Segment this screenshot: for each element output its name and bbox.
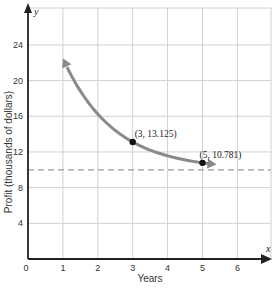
x-tick-label: 6 [235,263,240,273]
y-tick-label: 16 [13,111,23,121]
y-tick-label: 12 [13,147,23,157]
profit-chart: 01234564812162024 (3, 13.125)(5, 10.781)… [0,0,274,296]
data-point-label: (3, 13.125) [135,129,177,140]
x-tick-label: 4 [165,263,170,273]
y-tick-label: 8 [18,183,23,193]
x-tick-label: 3 [130,263,135,273]
y-tick-label: 20 [13,76,23,86]
x-tick-label: 0 [23,263,28,273]
x-tick-label: 5 [200,263,205,273]
y-tick-label: 24 [13,40,23,50]
x-axis-name: x [265,243,271,254]
data-point [130,139,136,145]
y-axis-name: y [33,6,39,17]
y-tick-label: 4 [18,218,23,228]
profit-curve [67,67,212,164]
curve-arrowhead-start [62,58,71,68]
y-axis-label: Profit (thousands of dollars) [3,91,14,213]
data-point-label: (5, 10.781) [200,150,242,161]
data-point [199,160,205,166]
curve-arrowhead-end [207,159,216,169]
x-tick-label: 2 [95,263,100,273]
x-axis-arrow-icon [261,254,272,264]
x-axis-label: Years [137,273,162,284]
x-tick-label: 1 [60,263,65,273]
